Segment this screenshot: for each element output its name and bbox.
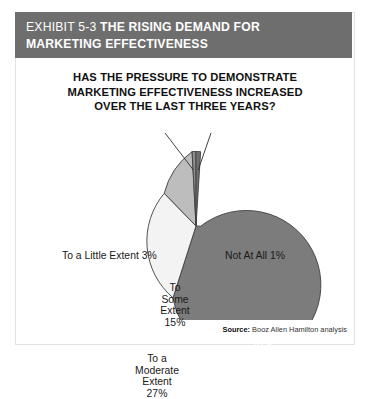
source-note: Source: Booz Allen Hamilton analysis (223, 325, 347, 334)
exhibit-title-line-1: THE RISING DEMAND FOR (100, 20, 260, 34)
pie-label-moderate-extent-line-1: To a (119, 353, 195, 365)
pie-label-large-extent-line-2: Large Extent (219, 351, 305, 363)
pie-label-some-extent-line-3: Extent (146, 305, 204, 317)
pie-label-some-extent-value: 15% (146, 317, 204, 329)
exhibit-number: EXHIBIT 5-3 (26, 20, 96, 34)
pie-label-large-extent-line-1: To a (219, 339, 305, 351)
exhibit-title-line-2: MARKETING EFFECTIVENESS (26, 36, 352, 53)
chart-title-line-3: OVER THE LAST THREE YEARS? (20, 99, 350, 114)
pie-label-some-extent-line-1: To (146, 282, 204, 294)
pie-label-moderate-extent: To a Moderate Extent 27% (119, 353, 195, 399)
source-text: Booz Allen Hamilton analysis (250, 325, 347, 334)
exhibit-header-line-1: EXHIBIT 5-3 THE RISING DEMAND FOR (26, 19, 352, 36)
exhibit-header: EXHIBIT 5-3 THE RISING DEMAND FOR MARKET… (15, 12, 352, 58)
pie-label-some-extent: To Some Extent 15% (146, 282, 204, 328)
pie-label-large-extent: To a Large Extent 54% (219, 339, 305, 374)
pie-label-some-extent-line-2: Some (146, 294, 204, 306)
chart-title-line-2: MARKETING EFFECTIVENESS INCREASED (20, 85, 350, 100)
pie-label-not-at-all: Not At All 1% (225, 250, 285, 262)
chart-title: HAS THE PRESSURE TO DEMONSTRATE MARKETIN… (20, 70, 350, 114)
pie-chart: To a Little Extent 3% Not At All 1% To S… (15, 120, 355, 320)
source-label: Source: (223, 325, 251, 334)
pie-slice-not-at-all (196, 152, 201, 227)
pie-label-moderate-extent-line-2: Moderate (119, 365, 195, 377)
pie-label-moderate-extent-line-3: Extent (119, 376, 195, 388)
pie-label-moderate-extent-value: 27% (119, 388, 195, 399)
pie-label-large-extent-value: 54% (219, 362, 305, 374)
pie-label-little-extent: To a Little Extent 3% (62, 250, 157, 262)
chart-title-line-1: HAS THE PRESSURE TO DEMONSTRATE (20, 70, 350, 85)
